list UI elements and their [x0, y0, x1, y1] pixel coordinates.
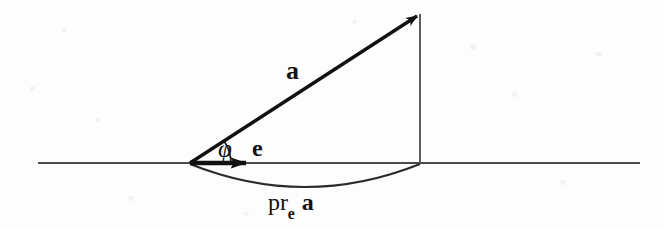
projection-arc: [190, 164, 420, 187]
unit-vector-e-label: e: [252, 136, 263, 160]
angle-phi-label: φ: [218, 136, 232, 161]
projection-operator-text: pr: [268, 189, 288, 215]
projection-label: prea: [268, 190, 314, 219]
projection-subscript-text: e: [288, 205, 295, 222]
vector-a-label: a: [286, 58, 299, 84]
figure-canvas: [0, 0, 664, 229]
vector-projection-figure: a e φ prea: [0, 0, 664, 229]
projection-argument-text: a: [302, 189, 314, 215]
